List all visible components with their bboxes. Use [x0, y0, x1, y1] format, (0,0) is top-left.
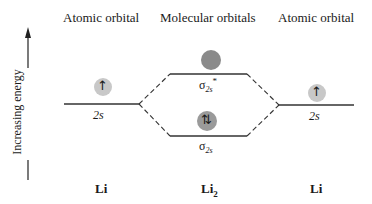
header-left-atomic-orbital: Atomic orbital — [63, 10, 139, 26]
energy-axis-arrowhead-icon — [25, 27, 31, 38]
left-electron-up-arrow-icon: ↑ — [97, 78, 108, 93]
species-left: Li — [95, 181, 107, 197]
header-molecular-orbitals: Molecular orbitals — [160, 10, 256, 26]
species-right: Li — [310, 181, 322, 197]
right-electron-up-arrow-icon: ↑ — [311, 84, 322, 99]
antibonding-label: σ2s* — [199, 76, 217, 94]
correlation-line-right-antibonding — [247, 74, 279, 105]
mo-diagram-canvas — [0, 0, 372, 204]
species-center-sub: 2 — [213, 189, 218, 199]
right-2s-label: 2s — [309, 109, 320, 124]
bonding-electron-pair-icon: ⇅ — [201, 112, 212, 127]
species-center: Li2 — [201, 181, 218, 199]
energy-axis-label: Increasing energy — [10, 69, 25, 154]
correlation-line-left-antibonding — [139, 74, 170, 104]
bonding-label-sub: 2s — [205, 146, 212, 155]
antibonding-label-sup: * — [213, 76, 218, 86]
species-center-base: Li — [201, 181, 213, 196]
bonding-label: σ2s — [199, 139, 213, 155]
antibonding-orbital-circle — [201, 50, 221, 70]
axis-label-gap — [23, 68, 33, 160]
correlation-line-right-bonding — [247, 105, 279, 136]
antibonding-label-sub: 2s — [205, 85, 212, 94]
correlation-line-left-bonding — [139, 104, 170, 136]
header-right-atomic-orbital: Atomic orbital — [278, 10, 354, 26]
left-2s-label: 2s — [93, 108, 104, 123]
